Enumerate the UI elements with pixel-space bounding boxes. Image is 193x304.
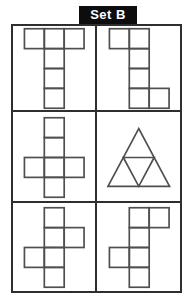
set-label: Set B	[79, 6, 137, 24]
subdivided-triangle-icon	[97, 112, 181, 201]
cell-top-right	[97, 26, 181, 112]
shape-grid	[11, 24, 182, 293]
t-shape-icon	[13, 26, 95, 110]
cross-shape-icon	[13, 112, 95, 201]
cell-bottom-left	[13, 203, 97, 291]
cell-middle-right	[97, 112, 181, 203]
zigzag-cross-top-arm-icon	[97, 203, 181, 291]
cell-top-left	[13, 26, 97, 112]
figure-canvas: Set B	[0, 0, 193, 304]
zigzag-cross-icon	[13, 203, 95, 291]
z-shape-icon	[97, 26, 181, 110]
cell-bottom-right	[97, 203, 181, 291]
cell-middle-left	[13, 112, 97, 203]
